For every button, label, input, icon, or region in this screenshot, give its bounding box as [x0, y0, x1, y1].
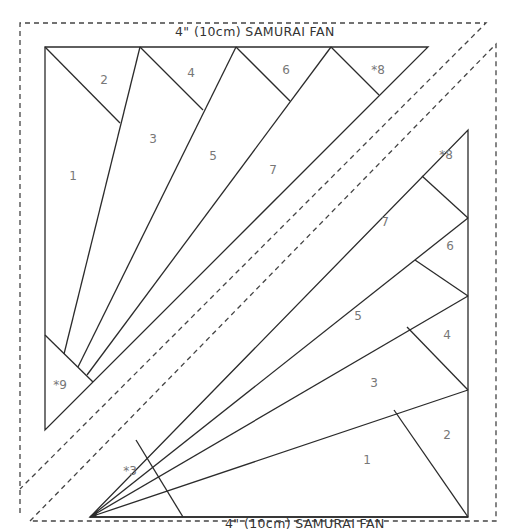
upper-left-piece-label: 7 — [269, 163, 277, 177]
upper-left-piece-label: 5 — [209, 149, 217, 163]
lower-right-outline — [90, 130, 468, 517]
seam-6 — [415, 260, 468, 296]
seam-1-3 — [64, 47, 140, 354]
lower-right-piece-label: 2 — [443, 428, 451, 442]
upper-left-piece-label: 6 — [282, 63, 290, 77]
seam-1-2 — [45, 47, 120, 123]
lower-right-piece-label: 7 — [381, 215, 389, 229]
lower-right-piece-label: *8 — [439, 148, 453, 162]
seam-2 — [394, 410, 468, 517]
seam-9 — [45, 335, 93, 382]
seam-8 — [422, 176, 468, 218]
upper-left-piece-label: 3 — [149, 132, 157, 146]
title-bottom: 4" (10cm) SAMURAI FAN — [225, 516, 385, 530]
lower-right-piece-label: 6 — [446, 239, 454, 253]
upper-left-seam-outline — [20, 23, 486, 513]
seam-3 — [136, 440, 183, 517]
fan-line-4 — [90, 390, 468, 517]
upper-left-block — [45, 47, 428, 430]
upper-left-piece-label: *9 — [53, 378, 67, 392]
lower-right-block — [90, 130, 468, 517]
title-top: 4" (10cm) SAMURAI FAN — [175, 24, 335, 39]
lower-right-piece-label: 1 — [363, 453, 371, 467]
lower-right-piece-label: *3 — [123, 464, 137, 478]
samurai-fan-pattern: 4" (10cm) SAMURAI FAN 4" (10cm) SAMURAI … — [0, 0, 507, 530]
cutting-lines — [20, 23, 496, 521]
lower-right-piece-label: 3 — [370, 376, 378, 390]
upper-left-piece-label: *8 — [371, 63, 385, 77]
fan-line-8 — [90, 218, 468, 517]
upper-left-piece-label: 4 — [187, 66, 195, 80]
pattern-drawing — [0, 0, 507, 530]
seam-4 — [407, 327, 468, 390]
lower-right-piece-label: 5 — [354, 309, 362, 323]
lower-right-seam-outline — [30, 44, 496, 521]
lower-right-piece-label: 4 — [443, 328, 451, 342]
upper-left-piece-label: 2 — [100, 73, 108, 87]
upper-left-piece-label: 1 — [69, 169, 77, 183]
seam-5-7 — [87, 47, 331, 375]
